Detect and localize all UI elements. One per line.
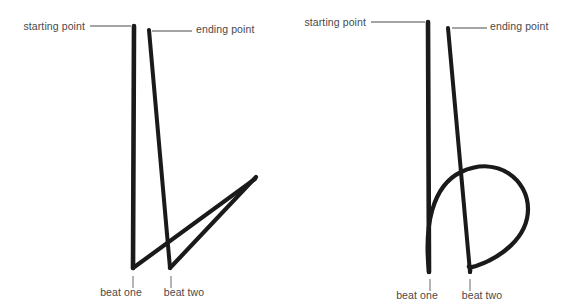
right-loop-stroke bbox=[428, 166, 528, 272]
left-beat-one-label: beat one bbox=[100, 286, 142, 298]
right-figure: starting point ending point beat one bea… bbox=[304, 16, 548, 301]
left-downbeat-stroke bbox=[133, 26, 134, 268]
left-ending-point-label: ending point bbox=[196, 23, 254, 35]
left-figure-labels: starting point ending point beat one bea… bbox=[23, 20, 254, 298]
right-upbeat-stroke bbox=[448, 28, 470, 272]
left-figure: starting point ending point beat one bea… bbox=[23, 20, 256, 298]
conducting-pattern-diagram: starting point ending point beat one bea… bbox=[0, 0, 562, 307]
left-rebound-to-beat-two-stroke bbox=[133, 179, 255, 268]
left-figure-strokes bbox=[133, 26, 256, 268]
left-starting-point-label: starting point bbox=[23, 20, 85, 32]
right-ending-point-label: ending point bbox=[490, 20, 548, 32]
left-final-upward-stroke bbox=[170, 177, 256, 268]
left-beat-two-label: beat two bbox=[164, 286, 205, 298]
diagram-root: starting point ending point beat one bea… bbox=[0, 0, 562, 307]
left-figure-leaders bbox=[90, 26, 192, 288]
left-upbeat-stroke bbox=[149, 30, 170, 268]
right-beat-one-label: beat one bbox=[396, 289, 438, 301]
right-beat-two-label: beat two bbox=[462, 289, 503, 301]
right-figure-strokes bbox=[428, 22, 528, 272]
right-starting-point-label: starting point bbox=[304, 16, 366, 28]
